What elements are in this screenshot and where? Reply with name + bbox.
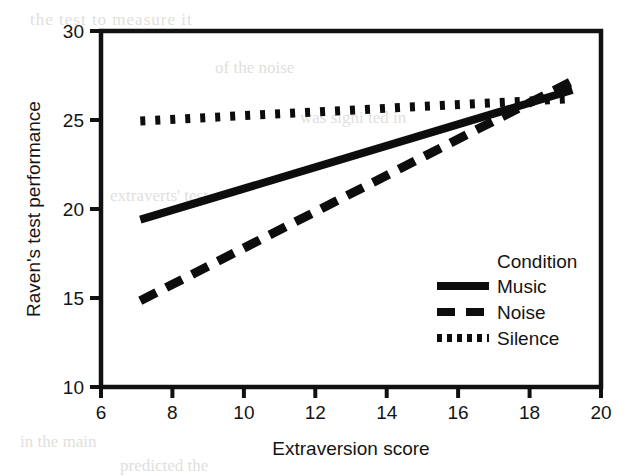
legend-title: Condition <box>497 251 577 272</box>
y-tick-label-25: 25 <box>63 110 84 131</box>
x-axis-tick-labels: 6 8 10 12 14 16 18 20 <box>96 402 612 423</box>
x-tick-label-6: 6 <box>96 402 107 423</box>
legend-item-music[interactable]: Music <box>437 276 547 297</box>
x-tick-label-18: 18 <box>519 402 540 423</box>
x-tick-label-14: 14 <box>376 402 398 423</box>
legend-item-noise[interactable]: Noise <box>437 302 546 323</box>
x-tick-label-16: 16 <box>448 402 469 423</box>
y-tick-label-30: 30 <box>63 21 84 42</box>
x-tick-label-12: 12 <box>305 402 326 423</box>
y-tick-label-10: 10 <box>63 377 84 398</box>
legend: Condition Music Noise Silence <box>437 251 577 349</box>
legend-item-silence[interactable]: Silence <box>437 328 559 349</box>
legend-label-noise: Noise <box>497 302 546 323</box>
x-tick-label-10: 10 <box>233 402 254 423</box>
x-tick-label-20: 20 <box>590 402 611 423</box>
chart-svg: 30 25 20 15 10 6 8 10 12 14 16 18 20 <box>0 0 634 476</box>
figure-container: the test to measure it of the noise extr… <box>0 0 634 476</box>
x-tick-label-8: 8 <box>167 402 178 423</box>
y-axis-title: Raven's test performance <box>23 101 44 317</box>
y-tick-label-15: 15 <box>63 288 84 309</box>
legend-label-music: Music <box>497 276 547 297</box>
legend-label-silence: Silence <box>497 328 559 349</box>
x-axis-title: Extraversion score <box>272 438 429 459</box>
y-tick-label-20: 20 <box>63 199 84 220</box>
y-axis-tick-labels: 30 25 20 15 10 <box>63 21 84 398</box>
